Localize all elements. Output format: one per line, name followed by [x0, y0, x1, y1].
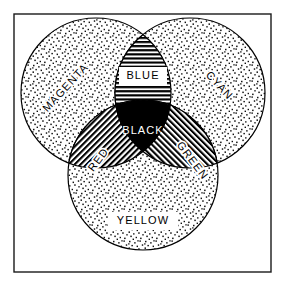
label-blue: BLUE: [119, 67, 167, 85]
label-yellow-text: YELLOW: [117, 214, 169, 226]
label-blue-text: BLUE: [126, 69, 159, 81]
label-yellow: YELLOW: [108, 212, 178, 230]
venn-diagram-figure: MAGENTA MAGENTA CYAN CYAN YELLOW BLUE RE…: [0, 0, 288, 287]
label-black: BLACK: [122, 124, 164, 136]
label-black-text: BLACK: [122, 124, 164, 136]
venn-diagram-canvas: MAGENTA MAGENTA CYAN CYAN YELLOW BLUE RE…: [0, 0, 288, 287]
